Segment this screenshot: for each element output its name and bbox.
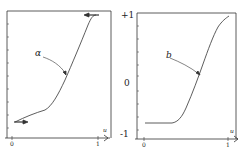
left-top-arrow-icon [84,13,89,17]
right-y-tick-top: +1 [121,11,134,20]
right-curve-b [145,16,229,123]
left-curve-alpha [15,15,96,122]
right-chart [135,13,238,142]
right-x-tick-0: 0 [142,142,146,148]
right-label-pointer [170,58,199,74]
right-curve-label: b [166,51,172,60]
right-x-axis-label: u [230,128,234,134]
left-chart [5,11,111,141]
right-y-tick-bottom: -1 [120,130,129,139]
right-y-tick-mid: 0 [124,79,130,88]
left-x-tick-1: 1 [96,141,100,147]
left-curve-label: α [35,49,41,58]
left-x-tick-0: 0 [10,141,14,147]
left-x-axis-label: u [103,127,107,133]
right-x-tick-1: 1 [226,142,230,148]
left-label-pointer [43,57,66,74]
left-bottom-arrow-icon [23,120,28,124]
